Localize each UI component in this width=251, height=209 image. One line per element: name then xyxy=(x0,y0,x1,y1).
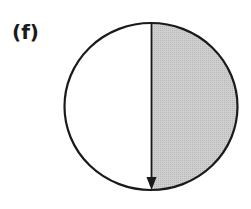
circle-diagram xyxy=(0,0,251,209)
